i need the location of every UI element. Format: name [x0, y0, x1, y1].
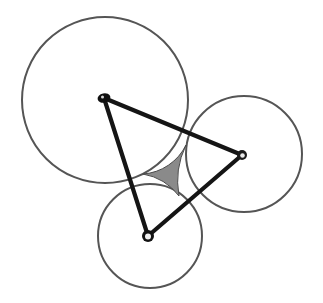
node-c-highlight	[145, 234, 151, 240]
background-rect	[0, 0, 323, 303]
node-c	[142, 230, 154, 242]
diagram-canvas	[0, 0, 323, 303]
node-b	[237, 150, 247, 160]
three-circles-diagram	[0, 0, 323, 303]
node-b-highlight	[240, 153, 245, 158]
node-a-highlight	[101, 96, 104, 99]
